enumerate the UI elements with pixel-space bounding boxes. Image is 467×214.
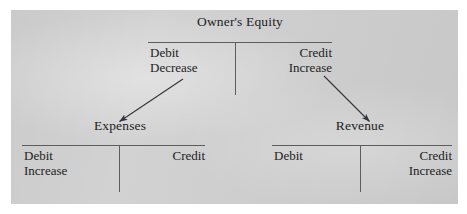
owners-equity-credit-effect: Increase <box>246 60 332 75</box>
owners-equity-vertical-rule <box>235 42 236 95</box>
revenue-debit-column: Debit <box>274 148 358 163</box>
revenue-title: Revenue <box>300 118 420 134</box>
expenses-credit-column: Credit <box>125 148 205 163</box>
revenue-credit-heading: Credit <box>366 148 452 163</box>
revenue-debit-heading: Debit <box>274 148 358 163</box>
owners-equity-debit-heading: Debit <box>150 45 234 60</box>
expenses-title: Expenses <box>55 118 185 134</box>
owners-equity-credit-heading: Credit <box>246 45 332 60</box>
expenses-debit-heading: Debit <box>24 148 114 163</box>
expenses-vertical-rule <box>119 145 120 192</box>
revenue-credit-column: Credit Increase <box>366 148 452 178</box>
t-account-diagram: Owner's Equity Debit Decrease Credit Inc… <box>0 0 467 214</box>
revenue-horizontal-rule <box>272 145 452 146</box>
expenses-debit-column: Debit Increase <box>24 148 114 178</box>
revenue-vertical-rule <box>360 145 361 192</box>
owners-equity-title: Owner's Equity <box>150 14 330 30</box>
expenses-horizontal-rule <box>22 145 205 146</box>
owners-equity-debit-column: Debit Decrease <box>150 45 234 75</box>
owners-equity-horizontal-rule <box>148 42 332 43</box>
owners-equity-credit-column: Credit Increase <box>246 45 332 75</box>
expenses-debit-effect: Increase <box>24 163 114 178</box>
revenue-credit-effect: Increase <box>366 163 452 178</box>
owners-equity-debit-effect: Decrease <box>150 60 234 75</box>
expenses-credit-heading: Credit <box>125 148 205 163</box>
